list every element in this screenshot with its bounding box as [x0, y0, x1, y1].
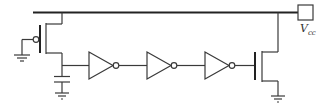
ground-icon [14, 55, 30, 61]
inverter-1 [89, 52, 119, 79]
nmos-transistor [255, 13, 278, 97]
vcc-label: Vcc [300, 22, 316, 37]
circuit-diagram [0, 0, 324, 109]
ground-icon [271, 96, 285, 102]
ground-icon [55, 93, 69, 99]
inverter-2 [147, 52, 177, 79]
inverter-3 [205, 52, 235, 79]
vcc-terminal [298, 5, 313, 20]
pmos-transistor [22, 13, 62, 56]
gate-bubble-icon [33, 37, 39, 43]
capacitor [54, 77, 70, 94]
